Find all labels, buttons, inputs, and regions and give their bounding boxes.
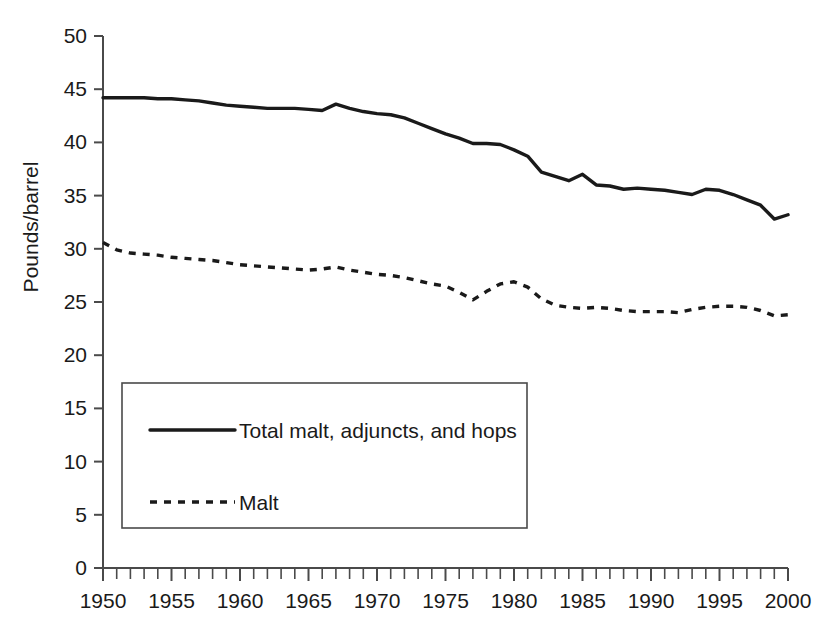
y-tick-label: 10: [64, 450, 87, 473]
x-tick-label: 1955: [148, 589, 195, 612]
x-tick-label: 1965: [285, 589, 332, 612]
x-tick-label: 1990: [628, 589, 675, 612]
y-tick-label: 40: [64, 130, 87, 153]
x-tick-label: 1995: [696, 589, 743, 612]
y-tick-label: 35: [64, 184, 87, 207]
y-tick-label: 30: [64, 237, 87, 260]
legend-label: Total malt, adjuncts, and hops: [239, 419, 517, 442]
x-tick-label: 2000: [765, 589, 812, 612]
y-axis-title: Pounds/barrel: [19, 162, 42, 293]
x-tick-label: 1970: [354, 589, 401, 612]
y-tick-label: 5: [75, 503, 87, 526]
x-tick-label: 1985: [559, 589, 606, 612]
legend-label: Malt: [239, 491, 279, 514]
y-tick-label: 0: [75, 556, 87, 579]
series-line-malt: [103, 242, 788, 315]
y-tick-label: 15: [64, 396, 87, 419]
x-tick-label: 1975: [422, 589, 469, 612]
x-tick-label: 1960: [217, 589, 264, 612]
y-tick-label: 20: [64, 343, 87, 366]
y-tick-label: 25: [64, 290, 87, 313]
x-tick-label: 1980: [491, 589, 538, 612]
y-tick-label: 50: [64, 24, 87, 47]
legend-box: [122, 383, 527, 528]
series-line-total: [103, 98, 788, 219]
chart-figure: 0510152025303540455019501955196019651970…: [0, 0, 822, 641]
x-tick-label: 1950: [80, 589, 127, 612]
y-tick-label: 45: [64, 77, 87, 100]
line-chart-canvas: 0510152025303540455019501955196019651970…: [0, 0, 822, 641]
